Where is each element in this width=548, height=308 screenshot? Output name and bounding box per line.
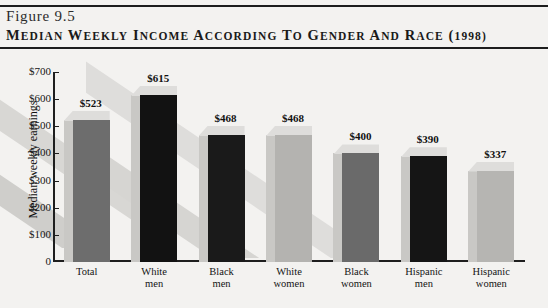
bar	[64, 111, 110, 262]
category-label: Total	[53, 266, 120, 278]
y-tick-label: $400	[3, 146, 51, 158]
y-tick-label: 0	[3, 255, 51, 267]
bar-front-face	[275, 135, 312, 262]
bar-side-face	[468, 171, 477, 262]
bar-chart: Median weekly earnings $700$600$500$400$…	[0, 52, 548, 308]
bar-series: $523$615$468$468$400$390$337	[53, 72, 525, 262]
category-label: Hispanicwomen	[458, 266, 525, 290]
bar-column: $615	[120, 72, 187, 262]
y-tick-label: $600	[3, 92, 51, 104]
bar-front-face	[410, 156, 447, 262]
title-underline-rule	[0, 47, 548, 49]
bar-side-face	[131, 95, 140, 262]
bar-front-face	[208, 135, 245, 262]
figure-title: MEDIAN WEEKLY INCOME ACCORDING TO GENDER…	[6, 27, 487, 44]
figure-page: Figure 9.5 MEDIAN WEEKLY INCOME ACCORDIN…	[0, 0, 548, 308]
category-label: Whitewomen	[255, 266, 322, 290]
bar-column: $523	[53, 72, 120, 262]
bar-front-face	[140, 95, 177, 262]
bar-value-label: $468	[270, 112, 316, 124]
bar-value-label: $468	[203, 112, 249, 124]
figure-number: Figure 9.5	[6, 8, 76, 25]
bar-column: $468	[255, 72, 322, 262]
y-tick-label: $500	[3, 119, 51, 131]
y-tick-label: $200	[3, 201, 51, 213]
bar-side-face	[333, 153, 342, 262]
x-axis-category-labels: TotalWhitemenBlackmenWhitewomenBlackwome…	[53, 266, 525, 306]
category-label: Blackwomen	[323, 266, 390, 290]
bar-side-face	[64, 120, 73, 262]
bar	[401, 147, 447, 262]
category-label: Whitemen	[120, 266, 187, 290]
y-tick-label: $700	[3, 65, 51, 77]
bar-side-face	[401, 156, 410, 262]
top-rule	[0, 5, 548, 7]
bar-column: $400	[323, 72, 390, 262]
bar-value-label: $400	[337, 130, 383, 142]
bar-front-face	[73, 120, 110, 262]
bar-front-face	[477, 171, 514, 262]
bar-column: $390	[390, 72, 457, 262]
category-label: Hispanicmen	[390, 266, 457, 290]
bar	[468, 162, 514, 262]
bar-value-label: $390	[405, 133, 451, 145]
bar	[266, 126, 312, 262]
bar-side-face	[199, 135, 208, 262]
category-label: Blackmen	[188, 266, 255, 290]
bar-value-label: $615	[135, 72, 181, 84]
y-tick-label: $300	[3, 174, 51, 186]
bar-value-label: $523	[68, 97, 114, 109]
bar	[333, 144, 379, 262]
bar-column: $337	[458, 72, 525, 262]
y-tick-label: $100	[3, 228, 51, 240]
bar-side-face	[266, 135, 275, 262]
bar	[131, 86, 177, 262]
bar-column: $468	[188, 72, 255, 262]
bar-front-face	[342, 153, 379, 262]
bar-value-label: $337	[472, 148, 518, 160]
bar	[199, 126, 245, 262]
